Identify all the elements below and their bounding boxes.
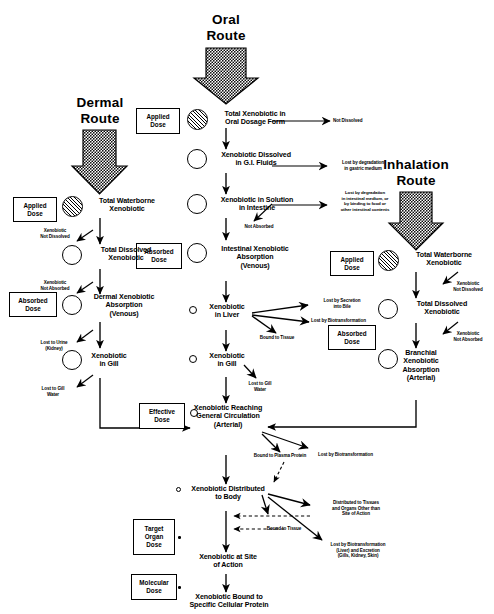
edge-circ-boundplasma <box>262 434 280 452</box>
annotation-bound-tissue-body: Bound to Tissue <box>258 526 310 532</box>
node-xenobiotic-distributed: Xenobiotic Distributed to Body <box>176 485 280 502</box>
annotation-dermal-not-dissolved: Xenobiotic Not Dissolved <box>30 228 80 239</box>
node-xenobiotic-liver: Xenobiotic in Liver <box>198 303 256 320</box>
node-dermal-total-waterborne: Total Waterborne Xenobiotic <box>80 197 174 214</box>
node-bound-cellular-protein: Xenobiotic Bound to Specific Cellular Pr… <box>170 593 288 610</box>
annotation-lost-gill-water-center: Lost to Gill Water <box>238 381 282 392</box>
node-inhalation-total-dissolved: Total Dissolved Xenobiotic <box>396 300 488 317</box>
marker-circle-inhalation-dissolved <box>378 299 398 319</box>
annotation-lost-biotransformation-circulation: Lost by Biotransformation <box>318 452 398 458</box>
node-inhalation-total-waterborne: Total Waterborne Xenobiotic <box>398 251 490 268</box>
marker-circle-inhalation-applied <box>378 250 399 271</box>
annotation-distributed-to-tissues: Distributed to Tissues and Organs Other … <box>318 500 394 517</box>
annotation-bound-plasma-protein: Bound to Plasma Protein <box>246 453 314 459</box>
marker-circle-dermal-dissolved <box>62 245 82 265</box>
marker-circle-oral-solution <box>187 194 207 214</box>
annotation-lost-intestinal: Lost by degradation in intestinal medium… <box>326 190 404 213</box>
node-general-circulation: Xenobiotic Reaching General Circulation … <box>176 404 280 429</box>
node-xenobiotic-solution-intestine: Xenobiotic in Solution in Intestine <box>207 196 307 213</box>
node-intestinal-absorption: Intestinal Xenobiotic Absorption (Venous… <box>205 245 305 270</box>
dose-box-dermal-applied[interactable]: Applied Dose <box>13 197 57 222</box>
marker-circle-oral-absorbed <box>187 243 207 263</box>
marker-dot-site-action <box>178 536 181 539</box>
node-xenobiotic-gill-center: Xenobiotic in Gill <box>198 352 256 369</box>
diagram-canvas: Oral Route Dermal Route Inhalation Route… <box>0 0 494 614</box>
annotation-inhalation-not-absorbed: Xenobiotic Not Absorbed <box>444 331 492 342</box>
annotation-lost-bile: Lost by Secretion into Bile <box>311 298 373 309</box>
edge-liver-bile <box>252 305 308 313</box>
node-site-of-action: Xenobiotic at Site of Action <box>184 553 272 570</box>
edge-boundplasma-dashed <box>274 462 284 482</box>
dose-box-oral-applied[interactable]: Applied Dose <box>136 108 180 134</box>
dose-box-inhalation-absorbed[interactable]: Absorbed Dose <box>328 325 376 350</box>
dermal-route-block-arrow <box>72 130 127 194</box>
annotation-not-absorbed-oral: Not Absorbed <box>232 224 286 230</box>
annotation-not-dissolved-oral: Not Dissolved <box>333 118 395 124</box>
annotation-bound-tissue-liver: Bound to Tissue <box>248 335 306 341</box>
edge-dist-excretion <box>268 497 322 540</box>
edge-liver-biotrans <box>252 315 309 322</box>
dose-box-target-organ[interactable]: Target Organ Dose <box>133 519 175 555</box>
node-dermal-gill: Xenobiotic in Gill <box>80 352 138 369</box>
annotation-lost-biotransformation-excretion: Lost by Biotransformation (Liver) and Ex… <box>314 542 402 559</box>
node-dermal-absorption: Dermal Xenobiotic Absorption (Venous) <box>72 293 176 318</box>
marker-circle-oral-dissolved <box>187 149 207 169</box>
marker-circle-oral-applied <box>187 109 208 130</box>
annotation-lost-biotransformation-liver: Lost by Biotransformation <box>311 318 391 324</box>
node-dermal-total-dissolved: Total Dissolved Xenobiotic <box>80 246 172 263</box>
annotation-lost-gill-water-left: Lost to Gill Water <box>30 386 76 397</box>
annotation-lost-gastric: Lost by degradation in gastric medium <box>330 160 396 171</box>
marker-dot-molecular <box>178 586 181 589</box>
node-xenobiotic-dissolved-gi: Xenobiotic Dissolved in G.I. Fluids <box>208 151 304 168</box>
route-heading-oral: Oral Route <box>176 12 276 43</box>
marker-dot-gill-center <box>189 355 197 363</box>
oral-route-block-arrow <box>194 48 258 104</box>
marker-dot-liver <box>189 306 197 314</box>
annotation-lost-to-urine: Lost to Urine (Kidney) <box>28 340 80 351</box>
dose-box-inhalation-applied[interactable]: Applied Dose <box>330 251 374 276</box>
annotation-inhalation-not-dissolved: Xenobiotic Not Dissolved <box>444 281 492 292</box>
dose-box-dermal-absorbed[interactable]: Absorbed Dose <box>9 292 57 317</box>
node-branchial-absorption: Branchial Xenobiotic Absorption (Arteria… <box>385 349 457 382</box>
annotation-dermal-not-absorbed: Xenobiotic Not Absorbed <box>30 280 80 291</box>
node-oral-dosage-form: Total Xenobiotic in Oral Dosage Form <box>207 110 303 127</box>
edge-derm4-lostgill <box>77 375 93 387</box>
marker-circle-dermal-gill <box>62 350 82 370</box>
edge-inhalation-to-circulation <box>268 400 416 427</box>
edge-circ-biotrans <box>262 432 308 448</box>
